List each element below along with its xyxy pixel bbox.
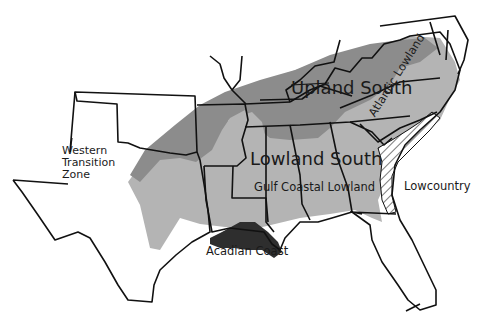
label-western-transition-zone: Western Transition Zone: [62, 145, 115, 181]
label-lowland-south: Lowland South: [250, 150, 382, 168]
label-gulf-coastal-lowland: Gulf Coastal Lowland: [254, 182, 375, 194]
label-acadian-coast: Acadian Coast: [206, 246, 288, 258]
label-lowcountry: Lowcountry: [404, 181, 471, 193]
